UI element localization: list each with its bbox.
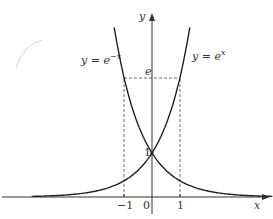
curve-label-neg-x: y = e−x	[81, 52, 121, 67]
y-axis-label: y	[139, 10, 145, 23]
exponential-diagram: y x y = e−x y = ex e 1 −1 0 1	[0, 0, 273, 219]
x-tick-neg1: −1	[117, 199, 133, 212]
y-axis-arrow-icon	[149, 13, 155, 21]
plot-area	[0, 0, 273, 219]
x-tick-1: 1	[177, 199, 184, 212]
x-axis-label: x	[254, 199, 260, 212]
y-tick-1: 1	[144, 146, 151, 159]
curve-label-x: y = ex	[192, 48, 225, 63]
decorative-arc	[16, 40, 42, 68]
x-tick-0: 0	[143, 199, 150, 212]
y-tick-e: e	[145, 65, 152, 78]
